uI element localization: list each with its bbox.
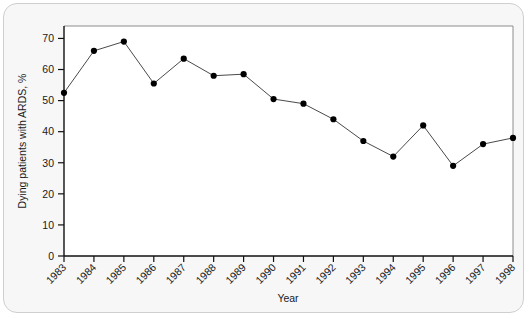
x-tick-label: 1997 xyxy=(462,261,487,286)
x-tick-label: 1998 xyxy=(492,261,517,286)
y-tick-label: 20 xyxy=(42,188,54,200)
y-tick-label: 30 xyxy=(42,157,54,169)
data-point-marker xyxy=(510,135,516,141)
figure-card: 010203040506070 198319841985198619871988… xyxy=(3,3,524,313)
y-tick-label: 10 xyxy=(42,219,54,231)
data-point-marker xyxy=(241,71,247,77)
x-tick-label: 1993 xyxy=(343,261,368,286)
y-tick-label: 0 xyxy=(48,250,54,262)
y-tick-label: 50 xyxy=(42,94,54,106)
data-point-marker xyxy=(300,101,306,107)
x-tick-label: 1987 xyxy=(163,261,188,286)
x-tick-label: 1984 xyxy=(73,261,98,286)
y-axis-title: Dying patients with ARDS, % xyxy=(16,74,28,209)
plot-background xyxy=(64,26,513,256)
x-tick-label: 1986 xyxy=(133,261,158,286)
x-tick-label: 1995 xyxy=(403,261,428,286)
data-point-marker xyxy=(151,80,157,86)
data-point-marker xyxy=(181,56,187,62)
x-tick-label: 1989 xyxy=(223,261,248,286)
data-point-marker xyxy=(450,163,456,169)
y-tick-label: 40 xyxy=(42,125,54,137)
data-point-marker xyxy=(121,38,127,44)
data-point-marker xyxy=(270,96,276,102)
line-chart: 010203040506070 198319841985198619871988… xyxy=(4,4,525,314)
chart-svg: 010203040506070 198319841985198619871988… xyxy=(4,4,525,314)
x-tick-label: 1992 xyxy=(313,261,338,286)
data-point-marker xyxy=(420,122,426,128)
x-tick-label: 1985 xyxy=(103,261,128,286)
y-tick-label: 70 xyxy=(42,32,54,44)
x-axis-ticks: 1983198419851986198719881989199019911992… xyxy=(43,256,517,286)
x-tick-label: 1991 xyxy=(283,261,308,286)
x-tick-label: 1983 xyxy=(43,261,68,286)
y-tick-label: 60 xyxy=(42,63,54,75)
data-point-marker xyxy=(330,116,336,122)
x-tick-label: 1990 xyxy=(253,261,278,286)
data-point-marker xyxy=(91,48,97,54)
data-point-marker xyxy=(390,153,396,159)
x-tick-label: 1988 xyxy=(193,261,218,286)
data-point-marker xyxy=(211,73,217,79)
y-axis-ticks: 010203040506070 xyxy=(42,32,64,262)
x-tick-label: 1996 xyxy=(433,261,458,286)
data-point-marker xyxy=(360,138,366,144)
data-point-marker xyxy=(61,90,67,96)
x-axis-title: Year xyxy=(277,292,299,304)
x-tick-label: 1994 xyxy=(373,261,398,286)
data-point-marker xyxy=(480,141,486,147)
